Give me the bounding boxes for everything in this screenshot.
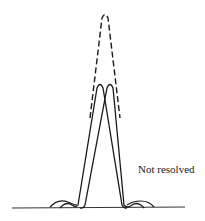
diagram-canvas: Not resolved bbox=[0, 0, 205, 221]
baseline bbox=[12, 207, 185, 208]
not-resolved-label: Not resolved bbox=[138, 163, 195, 175]
left-peak-curve bbox=[60, 85, 127, 209]
diffraction-plot bbox=[0, 0, 205, 221]
